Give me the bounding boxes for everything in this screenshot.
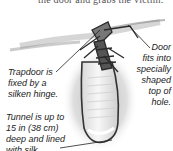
tunnel-label: Tunnel is up to 15 in (38 cm) deep and l… (6, 112, 78, 151)
trapdoor-label: Trapdoor is fixed by a silken hinge. (8, 67, 68, 100)
trapdoor-label-line: silken hinge. (8, 89, 68, 100)
door-label-line: specially (126, 64, 171, 75)
door-label: Door fits into specially shaped top of h… (126, 42, 171, 108)
door-label-line: top of (126, 86, 171, 97)
door-label-line: fits into (126, 53, 171, 64)
tunnel-label-line: Tunnel is up to (6, 112, 78, 123)
door-label-line: Door (126, 42, 171, 53)
tunnel-label-line: deep and lined (6, 134, 78, 145)
trapdoor-label-line: Trapdoor is (8, 67, 68, 78)
door-label-line: hole. (126, 97, 171, 108)
trapdoor-label-line: fixed by a (8, 78, 68, 89)
tunnel-label-line: 15 in (38 cm) (6, 123, 78, 134)
door-label-line: shaped (126, 75, 171, 86)
tunnel-label-line: with silk. (6, 145, 78, 151)
